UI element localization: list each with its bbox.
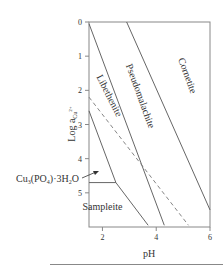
x-axis-title: pH [143,248,155,259]
y-tick-label-4: 4 [78,155,82,164]
compound-annotation: Cu3(PO4)·3H2O [16,171,99,185]
annotation-formula: Cu3(PO4)·3H2O [16,173,79,185]
field-label-sampleite: Sampleite [82,201,123,212]
pseudomalachite-cornetite-boundary [127,22,210,210]
y-tick-label-3: 3 [78,121,82,130]
libethenite-lower-boundary [89,111,116,183]
separator-rule [50,264,223,265]
y-axis-title: Log aCu2+ [66,106,78,142]
y-tick-label-2: 2 [78,86,82,95]
x-tick-label-6: 6 [208,233,212,242]
y-tick-label-1: 1 [78,52,82,61]
y-tick-label-5: 5 [78,189,82,198]
field-label-cornetite: Cornetite [176,56,199,95]
x-tick-label-4: 4 [154,233,158,242]
field-label-pseudomalachite: Pseudomalachite [124,62,158,130]
y-tick-label-0: 0 [78,18,82,27]
x-tick-label-2: 2 [100,233,104,242]
stability-diagram: 012345246 CornetitePseudomalachiteLibeth… [0,0,223,273]
